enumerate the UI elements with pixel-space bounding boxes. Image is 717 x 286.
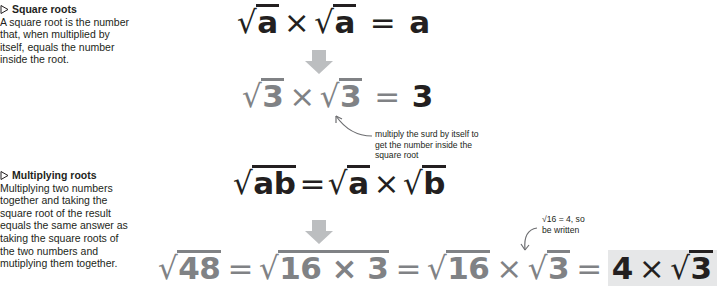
- section-heading-text: Multiplying roots: [12, 169, 97, 181]
- section-body: Multiplying two numbers together and tak…: [0, 182, 128, 270]
- radical: √3: [242, 78, 284, 114]
- section-heading: Multiplying roots: [0, 169, 135, 182]
- radical: √a: [328, 165, 370, 201]
- annotation-surd-note: multiply the surd by itself to get the n…: [375, 129, 480, 161]
- section-square-roots: Square roots A square root is the number…: [0, 3, 135, 66]
- equation-square-root-rule: √a×√a=a: [237, 4, 430, 40]
- radical: √16: [427, 250, 490, 286]
- section-multiplying-roots: Multiplying roots Multiplying two number…: [0, 169, 135, 270]
- annotation-sixteen-note: √16 = 4, so be written: [542, 214, 602, 235]
- radical: √16 × 3: [259, 250, 390, 286]
- radical: √b: [403, 165, 446, 201]
- radical: √3: [528, 250, 570, 286]
- radical: √3: [320, 78, 362, 114]
- equation-multiplying-roots-rule: √ab=√a×√b: [233, 165, 446, 201]
- triangle-bullet-icon: [0, 170, 9, 179]
- section-heading-text: Square roots: [12, 3, 77, 15]
- equation-example-surd: √3×√3=3: [242, 78, 433, 114]
- curved-pointer-arrow-icon: [330, 110, 374, 140]
- equation-example-48: √48=√16 × 3=√16×√3=4×√3: [158, 250, 717, 286]
- radical: √3: [670, 250, 712, 286]
- down-arrow-icon: [305, 50, 333, 74]
- radical: √ab: [233, 165, 296, 201]
- section-heading: Square roots: [0, 3, 135, 16]
- radical: √a: [237, 4, 279, 40]
- radical: √a: [314, 4, 356, 40]
- highlighted-result: 4×√3: [608, 250, 717, 286]
- radical: √48: [158, 250, 221, 286]
- curved-pointer-arrow-icon: [515, 226, 539, 254]
- triangle-bullet-icon: [0, 4, 9, 13]
- section-body: A square root is the number that, when m…: [0, 16, 129, 66]
- down-arrow-icon: [305, 220, 333, 244]
